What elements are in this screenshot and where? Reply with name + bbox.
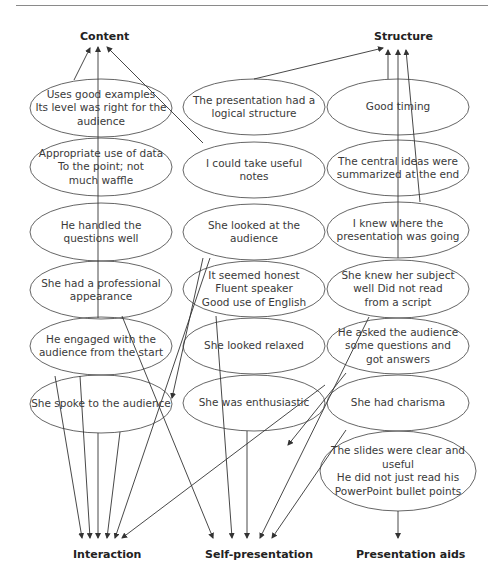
node-knew-subject: She knew her subject well Did not read f… [327,260,469,318]
node-professional-appearance: She had a professional appearance [30,261,172,319]
node-uses-good-examples: Uses good examples Its level was right f… [30,79,172,137]
node-useful-notes: I could take useful notes [183,142,325,198]
node-slides-clear: The slides were clear and useful He did … [320,431,476,511]
node-logical-structure: The presentation had a logical structure [183,79,325,135]
category-self-presentation: Self-presentation [205,548,313,561]
category-structure: Structure [374,30,433,43]
category-interaction: Interaction [73,548,141,561]
category-presentation-aids: Presentation aids [356,548,465,561]
node-good-timing: Good timing [327,79,469,135]
category-content: Content [80,30,129,43]
node-spoke-to-audience: She spoke to the audience [30,375,172,433]
node-seemed-honest: It seemed honest Fluent speaker Good use… [183,261,325,317]
node-central-ideas-summarized: The central ideas were summarized at the… [327,140,469,196]
node-looked-at-audience: She looked at the audience [183,204,325,260]
node-asked-questions: He asked the audience some questions and… [327,318,469,374]
node-handled-questions: He handled the questions well [30,203,172,261]
node-enthusiastic: She was enthusiastic [183,375,325,431]
node-knew-where-going: I knew where the presentation was going [327,202,469,258]
node-looked-relaxed: She looked relaxed [183,318,325,374]
node-engaged-audience: He engaged with the audience from the st… [30,317,172,375]
node-appropriate-use-of-data: Appropriate use of data To the point; no… [30,138,172,196]
node-charisma: She had charisma [327,375,469,431]
